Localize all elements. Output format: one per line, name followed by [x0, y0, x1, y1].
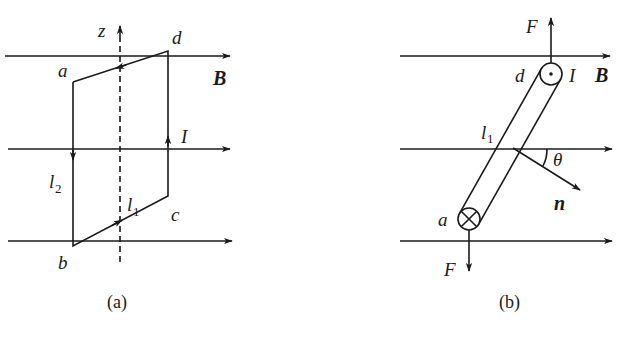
- caption-b: (b): [499, 292, 520, 313]
- vertex-d-label: d: [172, 27, 182, 48]
- svg-text:l: l: [481, 122, 486, 143]
- svg-text:1: 1: [133, 204, 140, 219]
- side-l2-label: l 2: [49, 171, 62, 196]
- vertex-b-label: b: [58, 252, 68, 273]
- current-i-label-b: I: [568, 65, 577, 86]
- side-l1-label-b: l 1: [481, 122, 494, 146]
- side-l1-label: l 1: [127, 194, 140, 219]
- rod-edge-left: [459, 69, 541, 214]
- figure-a: z d a B I c b l 2 l 1 (a): [5, 20, 232, 313]
- z-axis-label: z: [97, 20, 106, 41]
- field-b-label-b: B: [594, 64, 608, 86]
- angle-theta-label: θ: [553, 149, 562, 170]
- vertex-a-label-b: a: [438, 209, 448, 230]
- svg-text:2: 2: [55, 181, 62, 196]
- force-top-label: F: [525, 16, 538, 37]
- force-bottom-label: F: [443, 259, 456, 280]
- current-dot-icon: [549, 72, 553, 76]
- svg-text:l: l: [127, 194, 132, 215]
- figure-b: F d I B l 1 θ n a F (b): [400, 16, 612, 313]
- current-i-label: I: [180, 126, 189, 147]
- svg-text:l: l: [49, 171, 54, 192]
- vertex-c-label: c: [171, 204, 180, 225]
- caption-a: (a): [107, 292, 127, 313]
- arrow-b-to-c-icon: [112, 220, 122, 225]
- normal-n-label: n: [554, 192, 565, 214]
- vertex-a-label: a: [58, 60, 68, 81]
- diagram-canvas: z d a B I c b l 2 l 1 (a): [0, 0, 622, 341]
- field-b-label: B: [212, 67, 226, 89]
- svg-text:1: 1: [487, 131, 494, 146]
- angle-theta-arc: [543, 149, 547, 166]
- vertex-d-label-b: d: [515, 65, 525, 86]
